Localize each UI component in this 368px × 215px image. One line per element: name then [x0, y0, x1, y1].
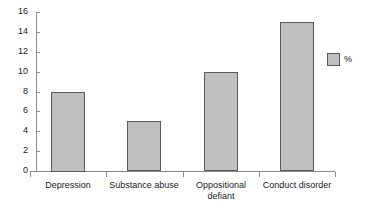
y-tick-label: 4	[0, 126, 28, 135]
legend-label-percent: %	[344, 55, 352, 64]
y-tick-label: 16	[0, 7, 28, 16]
y-tick-mark	[36, 92, 40, 93]
y-tick-mark	[36, 131, 40, 132]
y-tick-label: 12	[0, 47, 28, 56]
bar	[204, 72, 238, 171]
bar	[51, 92, 85, 172]
x-tick-mark	[259, 172, 260, 177]
y-tick-label: 14	[0, 27, 28, 36]
legend: %	[327, 53, 352, 66]
bar-chart: 0246810121416 DepressionSubstance abuseO…	[0, 0, 368, 215]
x-axis-category-label: Depression	[30, 180, 106, 191]
y-tick-label: 6	[0, 106, 28, 115]
x-tick-mark	[335, 172, 336, 177]
x-tick-mark	[106, 172, 107, 177]
x-tick-mark	[30, 172, 31, 177]
bar	[280, 22, 314, 171]
y-tick-mark	[36, 151, 40, 152]
y-tick-label: 2	[0, 146, 28, 155]
y-tick-label: 10	[0, 67, 28, 76]
x-axis-category-label: Oppositional defiant	[183, 180, 259, 201]
bar	[127, 121, 161, 171]
x-axis-category-label: Substance abuse	[106, 180, 182, 191]
y-tick-label: 0	[0, 166, 28, 175]
y-tick-mark	[36, 32, 40, 33]
x-tick-mark	[183, 172, 184, 177]
y-tick-mark	[36, 52, 40, 53]
x-axis-category-label: Conduct disorder	[259, 180, 335, 191]
y-tick-mark	[36, 111, 40, 112]
y-tick-mark	[36, 72, 40, 73]
y-tick-mark	[36, 12, 40, 13]
y-tick-label: 8	[0, 87, 28, 96]
legend-swatch-percent	[327, 53, 340, 66]
